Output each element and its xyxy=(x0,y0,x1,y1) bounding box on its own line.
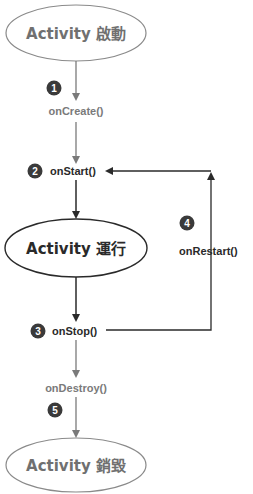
svg-text:5: 5 xyxy=(52,405,58,416)
svg-text:1: 1 xyxy=(51,83,57,94)
step-badge-5: 5 xyxy=(48,403,63,418)
svg-text:4: 4 xyxy=(184,218,190,229)
lifecycle-diagram: Activity 啟動 1 onCreate() 2 onStart() Act… xyxy=(0,0,253,494)
step-badge-2: 2 xyxy=(28,164,43,179)
svg-text:2: 2 xyxy=(32,166,38,177)
state-start-label: Activity 啟動 xyxy=(26,25,126,43)
method-onstart: onStart() xyxy=(50,165,96,177)
step-badge-1: 1 xyxy=(47,81,62,96)
state-activity-start: Activity 啟動 xyxy=(6,5,146,61)
step-badge-3: 3 xyxy=(31,324,46,339)
state-destroyed-label: Activity 銷毀 xyxy=(26,457,127,475)
state-activity-destroyed: Activity 銷毀 xyxy=(6,438,146,492)
method-ondestroy: onDestroy() xyxy=(45,382,107,394)
state-running-label: Activity 運行 xyxy=(26,240,126,258)
state-activity-running: Activity 運行 xyxy=(5,219,147,277)
method-oncreate: onCreate() xyxy=(48,105,103,117)
method-onstop: onStop() xyxy=(52,325,98,337)
method-onrestart: onRestart() xyxy=(179,245,238,257)
step-badge-4: 4 xyxy=(180,216,195,231)
svg-text:3: 3 xyxy=(35,326,41,337)
